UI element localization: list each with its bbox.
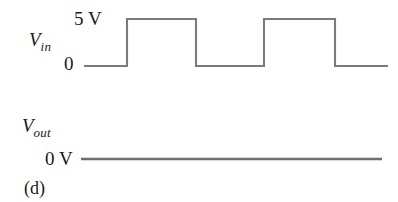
output-level-label: 0 V: [45, 149, 73, 168]
vin-base: V: [29, 29, 41, 50]
waveform-figure: Vin 5 V 0 Vout 0 V (d): [0, 0, 398, 202]
vin-subscript: in: [41, 39, 52, 54]
vin-waveform-path: [84, 19, 388, 66]
waveform-plot: [0, 0, 398, 202]
vout-base: V: [22, 115, 34, 136]
input-high-level-label: 5 V: [74, 9, 102, 28]
subfigure-label: (d): [24, 179, 45, 197]
vout-subscript: out: [34, 125, 51, 140]
input-low-level-label: 0: [64, 54, 74, 73]
vin-signal-label: Vin: [29, 30, 51, 53]
vout-signal-label: Vout: [22, 116, 51, 139]
